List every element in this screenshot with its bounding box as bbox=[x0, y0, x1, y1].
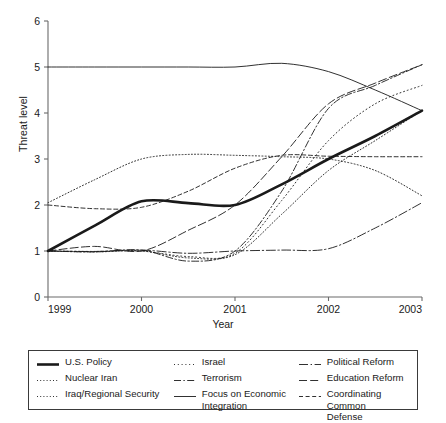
legend-item-coordinating-common-defense[interactable]: Coordinating Common Defense bbox=[298, 388, 417, 423]
legend-swatch-israel bbox=[173, 359, 197, 370]
legend-label: Focus on Economic Integration bbox=[202, 388, 286, 411]
series-line-coordinating-common-defense bbox=[48, 155, 422, 210]
x-tick-label: 2002 bbox=[317, 303, 341, 315]
y-tick-label: 1 bbox=[34, 245, 40, 257]
legend-label: Iraq/Regional Security bbox=[65, 388, 159, 400]
x-axis-title: Year bbox=[0, 318, 446, 330]
legend-item-political-reform[interactable]: Political Reform bbox=[298, 356, 417, 370]
legend-swatch-focus-on-economic-integration bbox=[173, 391, 197, 402]
legend-swatch-education-reform bbox=[298, 375, 322, 386]
y-tick-label: 2 bbox=[34, 199, 40, 211]
threat-level-line-chart: 012345619992000200120022003 Threat level… bbox=[0, 0, 446, 340]
y-axis-title: Threat level bbox=[17, 79, 29, 169]
legend-item-nuclear-iran[interactable]: Nuclear Iran bbox=[36, 372, 173, 386]
chart-legend: U.S. PolicyNuclear IranIraq/Regional Sec… bbox=[28, 350, 418, 410]
legend-label: U.S. Policy bbox=[65, 356, 112, 368]
legend-swatch-iraq-regional-security bbox=[36, 391, 60, 402]
legend-item-u-s-policy[interactable]: U.S. Policy bbox=[36, 356, 173, 370]
series-line-u-s-policy bbox=[48, 111, 422, 251]
series-line-political-reform bbox=[48, 203, 422, 254]
legend-swatch-coordinating-common-defense bbox=[298, 391, 322, 402]
legend-item-iraq-regional-security[interactable]: Iraq/Regional Security bbox=[36, 388, 173, 402]
legend-label: Coordinating Common Defense bbox=[327, 388, 417, 423]
y-tick-label: 3 bbox=[34, 153, 40, 165]
legend-label: Nuclear Iran bbox=[65, 372, 117, 384]
legend-item-education-reform[interactable]: Education Reform bbox=[298, 372, 417, 386]
legend-item-terrorism[interactable]: Terrorism bbox=[173, 372, 298, 386]
y-tick-label: 4 bbox=[34, 107, 40, 119]
x-tick-label: 2003 bbox=[399, 303, 423, 315]
legend-swatch-nuclear-iran bbox=[36, 375, 60, 386]
legend-column-3: Political ReformEducation ReformCoordina… bbox=[298, 356, 417, 409]
series-line-israel bbox=[48, 85, 422, 258]
legend-item-israel[interactable]: Israel bbox=[173, 356, 298, 370]
legend-column-2: IsraelTerrorismFocus on Economic Integra… bbox=[173, 356, 298, 409]
legend-item-focus-on-economic-integration[interactable]: Focus on Economic Integration bbox=[173, 388, 298, 411]
x-tick-label: 2000 bbox=[130, 303, 154, 315]
series-line-terrorism bbox=[48, 65, 422, 262]
legend-label: Political Reform bbox=[327, 356, 394, 368]
legend-label: Education Reform bbox=[327, 372, 404, 384]
y-tick-label: 0 bbox=[34, 291, 40, 303]
x-tick-label: 1999 bbox=[48, 303, 72, 315]
legend-column-1: U.S. PolicyNuclear IranIraq/Regional Sec… bbox=[29, 356, 173, 409]
legend-swatch-u-s-policy bbox=[36, 359, 60, 370]
series-line-iraq-regional-security bbox=[48, 154, 422, 202]
series-line-nuclear-iran bbox=[48, 111, 422, 259]
series-line-education-reform bbox=[48, 65, 422, 252]
chart-plot-area: 012345619992000200120022003 bbox=[0, 0, 446, 340]
legend-swatch-terrorism bbox=[173, 375, 197, 386]
legend-label: Israel bbox=[202, 356, 225, 368]
legend-swatch-political-reform bbox=[298, 359, 322, 370]
legend-label: Terrorism bbox=[202, 372, 242, 384]
x-tick-label: 2001 bbox=[223, 303, 247, 315]
y-tick-label: 5 bbox=[34, 61, 40, 73]
y-tick-label: 6 bbox=[34, 15, 40, 27]
